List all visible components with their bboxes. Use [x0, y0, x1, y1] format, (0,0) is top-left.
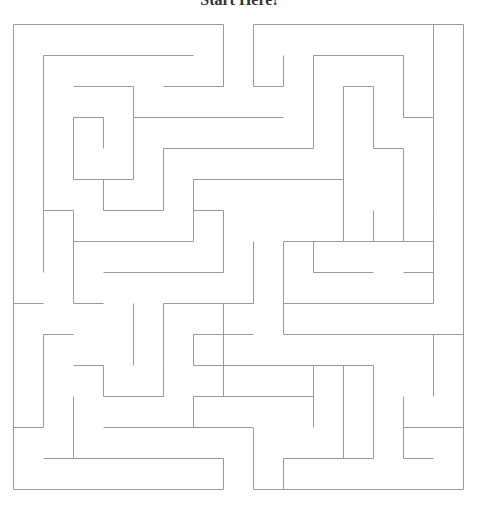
maze-grid: [0, 0, 478, 507]
